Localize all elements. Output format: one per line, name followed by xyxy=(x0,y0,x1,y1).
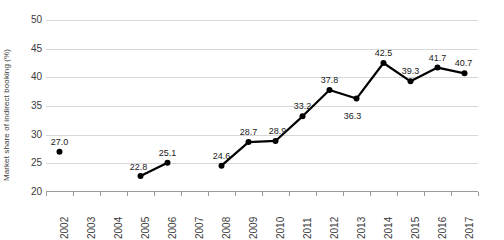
x-tickmark-9 xyxy=(289,192,290,196)
data-point-2017 xyxy=(462,70,468,76)
data-label-2010: 28.9 xyxy=(269,126,287,136)
x-tick-label-2007: 2007 xyxy=(195,199,205,239)
plot-area: 27.022.825.124.628.728.933.237.836.342.5… xyxy=(46,20,478,192)
data-label-2006: 25.1 xyxy=(159,148,177,158)
x-tickmark-10 xyxy=(316,192,317,196)
y-tick-label-35: 35 xyxy=(18,101,42,111)
x-tick-label-2016: 2016 xyxy=(438,199,448,239)
x-tick-label-2017: 2017 xyxy=(465,199,475,239)
x-tick-label-2010: 2010 xyxy=(276,199,286,239)
y-tick-label-40: 40 xyxy=(18,72,42,82)
data-point-2002 xyxy=(57,149,63,155)
x-tickmark-11 xyxy=(343,192,344,196)
y-axis-title: Market share of indirect booking (%) xyxy=(0,15,14,215)
x-tick-label-2014: 2014 xyxy=(384,199,394,239)
y-tick-label-20: 20 xyxy=(18,187,42,197)
y-axis-tick-labels: 20253035404550 xyxy=(16,0,42,240)
x-tickmark-0 xyxy=(46,192,47,196)
x-tick-label-2009: 2009 xyxy=(249,199,259,239)
data-label-2002: 27.0 xyxy=(51,137,69,147)
data-point-2012 xyxy=(327,87,333,93)
x-tickmark-7 xyxy=(235,192,236,196)
x-tick-label-2015: 2015 xyxy=(411,199,421,239)
line-chart: Market share of indirect booking (%) 202… xyxy=(0,0,504,240)
data-label-2016: 41.7 xyxy=(429,53,447,63)
x-tick-label-2008: 2008 xyxy=(222,199,232,239)
data-point-2013 xyxy=(354,96,360,102)
data-label-2012: 37.8 xyxy=(321,75,339,85)
x-tickmark-15 xyxy=(451,192,452,196)
data-point-2011 xyxy=(300,113,306,119)
x-tickmark-2 xyxy=(100,192,101,196)
x-tickmark-3 xyxy=(127,192,128,196)
data-point-2016 xyxy=(435,65,441,71)
x-tick-label-2006: 2006 xyxy=(168,199,178,239)
y-tick-label-25: 25 xyxy=(18,158,42,168)
x-tickmark-16 xyxy=(478,192,479,196)
x-tick-label-2002: 2002 xyxy=(60,199,70,239)
data-label-2014: 42.5 xyxy=(375,48,393,58)
x-tickmark-14 xyxy=(424,192,425,196)
x-tick-label-2004: 2004 xyxy=(114,199,124,239)
data-point-2008 xyxy=(219,163,225,169)
data-label-2013: 36.3 xyxy=(344,111,362,121)
data-label-2017: 40.7 xyxy=(455,58,473,68)
x-tick-label-2005: 2005 xyxy=(141,199,151,239)
data-label-2011: 33.2 xyxy=(294,101,312,111)
x-axis-tick-labels: 2002200320042005200620072008200920102011… xyxy=(46,192,478,240)
data-point-2005 xyxy=(138,173,144,179)
data-label-2009: 28.7 xyxy=(240,127,258,137)
data-label-2008: 24.6 xyxy=(213,151,231,161)
data-point-2009 xyxy=(246,139,252,145)
x-tickmark-4 xyxy=(154,192,155,196)
data-point-2014 xyxy=(381,60,387,66)
x-tick-label-2003: 2003 xyxy=(87,199,97,239)
data-point-2015 xyxy=(408,78,414,84)
data-label-2005: 22.8 xyxy=(130,162,148,172)
x-tickmark-6 xyxy=(208,192,209,196)
data-point-2006 xyxy=(165,160,171,166)
x-tickmark-5 xyxy=(181,192,182,196)
y-tick-label-50: 50 xyxy=(18,15,42,25)
y-tick-label-45: 45 xyxy=(18,44,42,54)
x-tickmark-13 xyxy=(397,192,398,196)
data-label-2015: 39.3 xyxy=(402,66,420,76)
x-tick-label-2011: 2011 xyxy=(303,199,313,239)
y-tick-label-30: 30 xyxy=(18,130,42,140)
x-tickmark-12 xyxy=(370,192,371,196)
series-line-market-share xyxy=(46,20,478,192)
x-tick-label-2012: 2012 xyxy=(330,199,340,239)
x-tickmark-1 xyxy=(73,192,74,196)
data-point-2010 xyxy=(273,138,279,144)
x-tick-label-2013: 2013 xyxy=(357,199,367,239)
x-tickmark-8 xyxy=(262,192,263,196)
